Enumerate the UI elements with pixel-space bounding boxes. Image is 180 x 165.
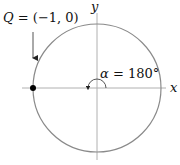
- angle-label: α = 180°: [100, 66, 159, 81]
- point-q: [30, 85, 36, 91]
- y-axis-label: y: [90, 0, 99, 14]
- x-axis-label: x: [170, 80, 178, 95]
- unit-circle-diagram: Q = (−1, 0) α = 180° x y: [0, 0, 180, 165]
- point-q-label: Q = (−1, 0): [3, 10, 79, 25]
